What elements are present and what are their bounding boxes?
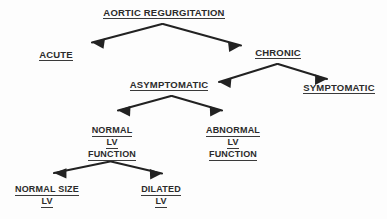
node-acute[interactable]: ACUTE — [26, 50, 86, 61]
edge-root-to-chronic — [163, 24, 241, 52]
node-normal-lv-function[interactable]: NORMAL LV FUNCTION — [78, 126, 146, 161]
edge-normal-lv-function-to-normal-size-lv — [54, 162, 110, 179]
node-aortic-regurgitation[interactable]: AORTIC REGURGITATION — [98, 8, 230, 19]
edge-asymptomatic-to-abnormal-lv-function — [172, 96, 222, 117]
node-label-line: ABNORMAL — [206, 126, 260, 137]
node-label-line: NORMAL SIZE — [15, 185, 79, 196]
node-label-line: LV — [227, 138, 238, 149]
node-abnormal-lv-function[interactable]: ABNORMAL LV FUNCTION — [198, 126, 268, 161]
edge-asymptomatic-to-normal-lv-function — [118, 96, 171, 116]
diagram-canvas: AORTIC REGURGITATION ACUTE CHRONIC ASYMP… — [0, 0, 387, 219]
node-label-line: CHRONIC — [255, 48, 301, 59]
edge-chronic-to-asymptomatic — [219, 64, 277, 88]
node-label-line: LV — [41, 197, 52, 208]
edge-root-to-acute — [92, 24, 162, 49]
node-label-line: FUNCTION — [209, 150, 257, 161]
edge-normal-lv-function-to-dilated-lv — [111, 162, 162, 180]
node-asymptomatic[interactable]: ASYMPTOMATIC — [124, 80, 214, 91]
node-label-line: AORTIC REGURGITATION — [103, 8, 224, 19]
node-label-line: SYMPTOMATIC — [303, 83, 375, 94]
node-label-line: ACUTE — [39, 50, 73, 61]
node-normal-size-lv[interactable]: NORMAL SIZE LV — [6, 185, 88, 208]
node-label-line: LV — [155, 197, 166, 208]
node-label-line: ASYMPTOMATIC — [130, 80, 209, 91]
node-chronic[interactable]: CHRONIC — [248, 48, 308, 59]
node-label-line: NORMAL — [92, 126, 133, 137]
node-symptomatic[interactable]: SYMPTOMATIC — [298, 83, 380, 94]
node-label-line: DILATED — [141, 185, 181, 196]
node-dilated-lv[interactable]: DILATED LV — [132, 185, 190, 208]
node-label-line: LV — [106, 138, 117, 149]
node-label-line: FUNCTION — [88, 150, 136, 161]
